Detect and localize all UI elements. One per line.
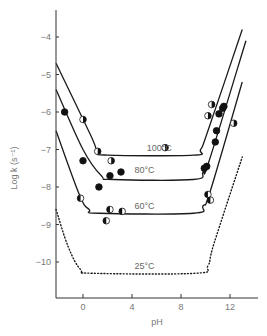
x-tick-label: 8 [178, 302, 183, 312]
data-point [108, 157, 115, 164]
x-axis: 04812 [56, 294, 258, 312]
data-point [213, 127, 220, 134]
curve-100c [56, 30, 242, 156]
data-point [107, 172, 114, 179]
y-tick-label: −7 [41, 145, 51, 155]
x-tick-label: 4 [129, 302, 134, 312]
data-point [103, 217, 110, 224]
x-tick-label: 0 [80, 302, 85, 312]
y-tick-label: −8 [41, 182, 51, 192]
y-tick-label: −9 [41, 220, 51, 230]
data-point [80, 157, 87, 164]
y-tick-label: −10 [36, 257, 51, 267]
data-point [118, 169, 125, 176]
y-tick-label: −4 [41, 32, 51, 42]
data-point [205, 112, 212, 119]
data-point [208, 101, 215, 108]
data-point [96, 184, 103, 191]
annotations-layer: 100°C80°C60°C25°C [134, 143, 172, 271]
curve-label: 100°C [147, 143, 173, 153]
y-tick-label: −6 [41, 107, 51, 117]
chart: −4−5−6−7−8−9−10 04812 100°C80°C60°C25°C … [0, 0, 267, 336]
data-point [212, 139, 219, 146]
y-axis-label: Log k (s⁻¹) [9, 146, 19, 189]
data-point [203, 163, 210, 170]
data-point [221, 103, 228, 110]
data-point [230, 120, 237, 127]
data-point [94, 148, 101, 155]
curve-label: 80°C [134, 165, 155, 175]
data-point [107, 206, 114, 213]
y-tick-label: −5 [41, 70, 51, 80]
curve-label: 60°C [134, 201, 155, 211]
data-point [207, 197, 214, 204]
data-point [80, 116, 87, 123]
x-tick-label: 12 [225, 302, 235, 312]
data-point [61, 109, 68, 116]
x-axis-label: pH [151, 317, 163, 327]
curve-label: 25°C [134, 261, 155, 271]
data-point [119, 208, 126, 215]
data-point [77, 195, 84, 202]
y-axis: −4−5−6−7−8−9−10 [36, 10, 59, 298]
